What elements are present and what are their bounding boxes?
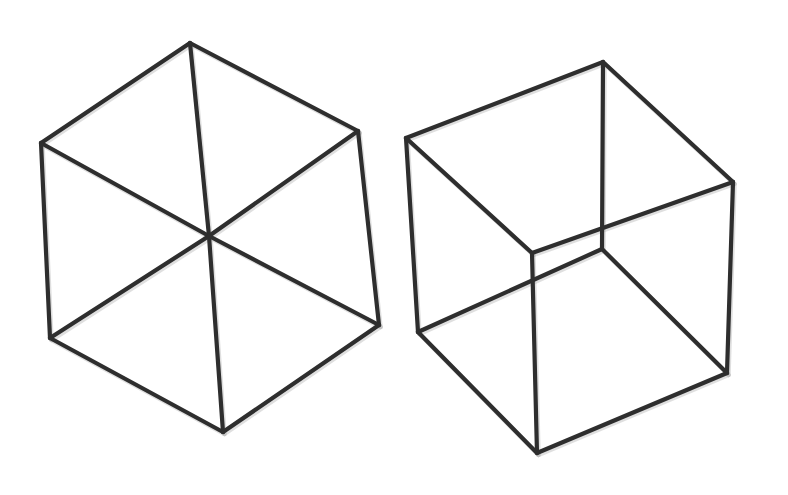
- cube-edge-upper_right-center: [209, 131, 358, 236]
- cube-edge-center-bottom: [209, 236, 223, 432]
- cube-edge-bottom_back-bottom_right: [602, 249, 727, 373]
- edge-shadow: [534, 184, 735, 255]
- cube-edge-bottom_front-bottom_left: [418, 332, 537, 453]
- cube-edge-top_back-top_right: [603, 62, 733, 182]
- edge-shadow: [211, 133, 360, 238]
- cube-edge-top_left-bottom_left: [406, 138, 418, 332]
- cube-edge-top_front-top_left: [406, 138, 532, 253]
- edge-shadow: [539, 375, 729, 455]
- cube-edge-top-upper_left: [41, 43, 190, 143]
- cube-edge-lower_left-bottom: [50, 338, 223, 432]
- cube-edge-lower_right-bottom: [223, 325, 379, 432]
- left-cube: [41, 43, 381, 434]
- edge-shadow: [408, 64, 605, 140]
- edge-shadow: [420, 251, 604, 334]
- edge-shadow: [43, 45, 192, 145]
- cube-edge-top_right-top_front: [532, 182, 733, 253]
- edge-shadow: [52, 238, 211, 340]
- cube-edge-top_right-bottom_right: [727, 182, 733, 373]
- figure-canvas: [0, 0, 788, 495]
- edge-shadow: [225, 327, 381, 434]
- wireframe-cubes-drawing: [0, 0, 788, 495]
- cube-edge-upper_right-lower_right: [358, 131, 379, 325]
- right-cube: [406, 62, 735, 455]
- cube-edge-top-center: [190, 43, 209, 236]
- cube-edge-upper_left-center: [41, 143, 209, 236]
- cube-edge-bottom_left-bottom_back: [418, 249, 602, 332]
- cube-edge-top_left-top_back: [406, 62, 603, 138]
- cube-edge-bottom_right-bottom_front: [537, 373, 727, 453]
- cube-edge-top_back-bottom_back: [602, 62, 603, 249]
- cube-edge-center-lower_left: [50, 236, 209, 338]
- cube-edge-center-lower_right: [209, 236, 379, 325]
- cube-edge-top-upper_right: [190, 43, 358, 131]
